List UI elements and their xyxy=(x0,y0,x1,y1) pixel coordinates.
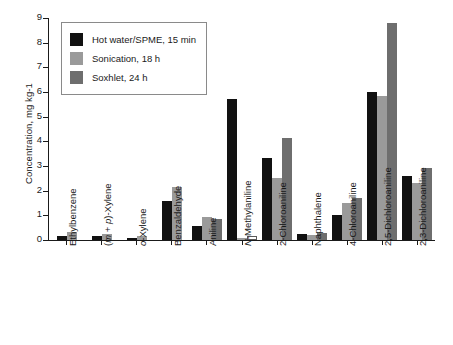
x-label-slot: 2-Chloroaniline xyxy=(260,246,295,345)
x-label-slot: 4-Chloroaniline xyxy=(330,246,365,345)
x-label-slot: 2,3-Dichloroaniline xyxy=(400,246,435,345)
y-tick-label: 0 xyxy=(26,233,42,244)
y-tick-label: 4 xyxy=(26,134,42,145)
x-axis-labels: Ethylbenzene(m + p)-Xyleneo-XyleneBenzal… xyxy=(49,246,435,345)
y-tick-label: 9 xyxy=(26,11,42,22)
y-tick xyxy=(43,18,48,19)
x-axis-label: 2,3-Dichloroaniline xyxy=(417,167,428,246)
bar xyxy=(192,226,202,240)
y-tick xyxy=(43,166,48,167)
y-tick-label: 8 xyxy=(26,36,42,47)
x-axis-label: N-Methylaniline xyxy=(242,181,253,247)
legend-label: Hot water/SPME, 15 min xyxy=(92,34,196,45)
y-tick-label: 6 xyxy=(26,85,42,96)
x-axis-label: o-Xylene xyxy=(137,208,148,246)
y-tick xyxy=(43,92,48,93)
bar xyxy=(127,238,137,240)
x-label-slot: Naphthalene xyxy=(295,246,330,345)
bar xyxy=(402,176,412,240)
x-axis-label: 2,5-Dichloroaniline xyxy=(382,167,393,246)
bar xyxy=(92,236,102,240)
legend-swatch-sonication xyxy=(70,52,83,65)
legend-swatch-soxhlet xyxy=(70,71,83,84)
bar-chart: Concentration, mg kg-1 0123456789 Ethylb… xyxy=(0,0,453,345)
y-tick-label: 1 xyxy=(26,208,42,219)
x-label-slot: Aniline xyxy=(189,246,224,345)
x-label-slot: 2,5-Dichloroaniline xyxy=(365,246,400,345)
x-axis-label: (m + p)-Xylene xyxy=(102,183,113,246)
y-tick xyxy=(43,67,48,68)
y-tick xyxy=(43,191,48,192)
legend-item: Sonication, 18 h xyxy=(70,49,196,68)
x-axis-label: Aniline xyxy=(207,217,218,246)
x-axis-label: Naphthalene xyxy=(312,192,323,246)
bar xyxy=(227,99,237,240)
bar xyxy=(57,236,67,240)
y-tick xyxy=(43,117,48,118)
legend-label: Soxhlet, 24 h xyxy=(92,72,147,83)
legend-item: Hot water/SPME, 15 min xyxy=(70,30,196,49)
x-label-slot: Ethylbenzene xyxy=(49,246,84,345)
y-tick-label: 5 xyxy=(26,110,42,121)
y-tick xyxy=(43,240,48,241)
x-label-slot: o-Xylene xyxy=(119,246,154,345)
legend: Hot water/SPME, 15 min Sonication, 18 h … xyxy=(61,22,207,95)
bar xyxy=(367,92,377,240)
y-tick-label: 3 xyxy=(26,159,42,170)
x-axis-label: 4-Chloroaniline xyxy=(347,182,358,246)
y-tick-label: 2 xyxy=(26,184,42,195)
x-axis-label: Ethylbenzene xyxy=(67,188,78,246)
legend-item: Soxhlet, 24 h xyxy=(70,68,196,87)
bar xyxy=(297,234,307,240)
legend-label: Sonication, 18 h xyxy=(92,53,160,64)
bar xyxy=(162,201,172,240)
y-tick xyxy=(43,215,48,216)
x-axis-label: 2-Chloroaniline xyxy=(277,182,288,246)
x-axis-label: Benzaldehyde xyxy=(172,186,183,246)
x-label-slot: N-Methylaniline xyxy=(224,246,259,345)
legend-swatch-hot-water xyxy=(70,33,83,46)
y-tick xyxy=(43,43,48,44)
x-label-slot: Benzaldehyde xyxy=(154,246,189,345)
y-tick xyxy=(43,141,48,142)
bar xyxy=(262,158,272,240)
x-label-slot: (m + p)-Xylene xyxy=(84,246,119,345)
bar xyxy=(332,215,342,240)
y-tick-label: 7 xyxy=(26,60,42,71)
